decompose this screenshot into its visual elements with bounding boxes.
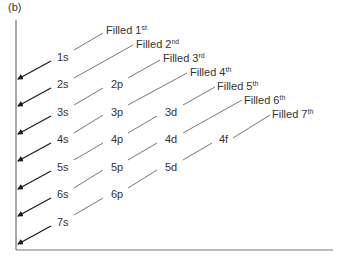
orbital-1s: 1s: [57, 51, 69, 63]
orbital-5d: 5d: [165, 161, 177, 173]
orbital-3p: 3p: [111, 106, 123, 118]
fill-label-2: Filled 2nd: [136, 38, 179, 50]
orbital-6s: 6s: [57, 188, 69, 200]
arrow-icon: [18, 143, 51, 161]
orbital-4p: 4p: [111, 133, 123, 145]
orbital-2s: 2s: [57, 78, 69, 90]
fill-label-3: Filled 3rd: [163, 52, 205, 64]
arrow-icon: [18, 226, 51, 244]
orbital-5p: 5p: [111, 161, 123, 173]
fill-label-4: Filled 4th: [190, 66, 231, 78]
orbital-4f: 4f: [219, 133, 228, 145]
fill-label-6: Filled 6th: [244, 94, 285, 106]
arrow-icon: [18, 61, 51, 79]
fill-label-1: Filled 1st: [106, 24, 147, 36]
orbital-4s: 4s: [57, 133, 69, 145]
row-arrows: [18, 61, 51, 244]
arrow-icon: [18, 171, 51, 189]
orbital-7s: 7s: [57, 216, 69, 228]
aufbau-diagram: (b): [0, 0, 341, 257]
orbital-3s: 3s: [57, 106, 69, 118]
fill-label-7: Filled 7th: [272, 108, 313, 120]
arrow-icon: [18, 116, 51, 134]
arrow-icon: [18, 198, 51, 216]
fill-label-5: Filled 5th: [217, 80, 258, 92]
orbital-3d: 3d: [165, 106, 177, 118]
orbital-4d: 4d: [165, 133, 177, 145]
orbital-2p: 2p: [111, 78, 123, 90]
arrow-icon: [18, 88, 51, 106]
orbital-5s: 5s: [57, 161, 69, 173]
orbital-6p: 6p: [111, 188, 123, 200]
